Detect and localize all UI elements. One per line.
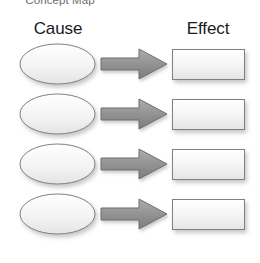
concept-row: [0, 92, 260, 138]
cause-shape[interactable]: [20, 144, 95, 184]
concept-row: [0, 42, 260, 88]
cause-shape[interactable]: [20, 94, 95, 134]
concept-map-canvas: Concept Map Cause Effect: [0, 0, 260, 263]
document-title: Concept Map: [0, 0, 120, 6]
cause-shape[interactable]: [20, 194, 95, 234]
effect-shape[interactable]: [173, 100, 245, 130]
effect-shape[interactable]: [173, 50, 245, 80]
column-heading-effect: Effect: [162, 19, 254, 39]
effect-shape[interactable]: [173, 200, 245, 230]
connector-arrow[interactable]: [101, 199, 167, 229]
connector-arrow[interactable]: [101, 49, 167, 79]
cause-shape[interactable]: [20, 44, 95, 84]
connector-arrow[interactable]: [101, 149, 167, 179]
concept-row: [0, 192, 260, 238]
concept-row: [0, 142, 260, 188]
column-heading-cause: Cause: [12, 19, 104, 39]
effect-shape[interactable]: [173, 150, 245, 180]
connector-arrow[interactable]: [101, 99, 167, 129]
